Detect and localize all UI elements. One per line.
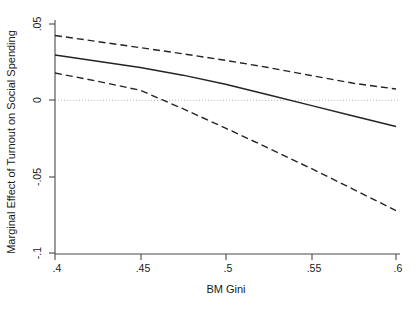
y-axis-label: Marginal Effect of Turnout on Social Spe… (2, 12, 20, 272)
y-tick-label-0: 0 (30, 87, 44, 113)
y-tick-label-005: .05 (30, 11, 44, 37)
y-tick-label-neg005: -.05 (30, 164, 44, 190)
x-tick-label-045: .45 (126, 262, 160, 274)
x-tick-label-05: .5 (211, 262, 245, 274)
x-axis-label: BM Gini (55, 283, 397, 295)
marginal-effects-plot: Marginal Effect of Turnout on Social Spe… (0, 0, 416, 310)
x-tick-label-06: .6 (381, 262, 415, 274)
x-tick-label-055: .55 (297, 262, 331, 274)
x-tick-label-04: .4 (40, 262, 74, 274)
